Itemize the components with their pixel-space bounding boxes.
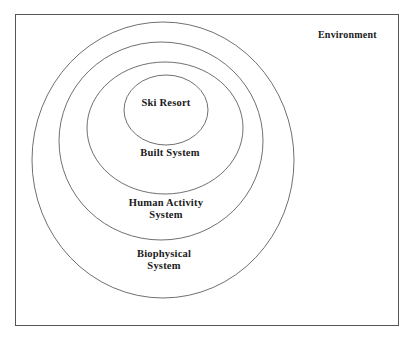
human-activity-system-label: Human Activity System bbox=[110, 197, 222, 221]
ski-resort-label: Ski Resort bbox=[125, 97, 207, 109]
ellipse-built-system bbox=[87, 62, 243, 194]
built-system-label: Built System bbox=[125, 147, 215, 159]
ellipse-ski-resort bbox=[124, 75, 208, 145]
biophysical-label-line-2: System bbox=[110, 260, 218, 272]
biophysical-label-line-1: Biophysical bbox=[110, 248, 218, 260]
ski-resort-label-line-1: Ski Resort bbox=[125, 97, 207, 109]
built-system-label-line-1: Built System bbox=[125, 147, 215, 159]
human-activity-label-line-2: System bbox=[110, 209, 222, 221]
biophysical-system-label: Biophysical System bbox=[110, 248, 218, 272]
nested-ellipses bbox=[0, 0, 414, 340]
environment-label: Environment bbox=[318, 29, 377, 41]
human-activity-label-line-1: Human Activity bbox=[110, 197, 222, 209]
